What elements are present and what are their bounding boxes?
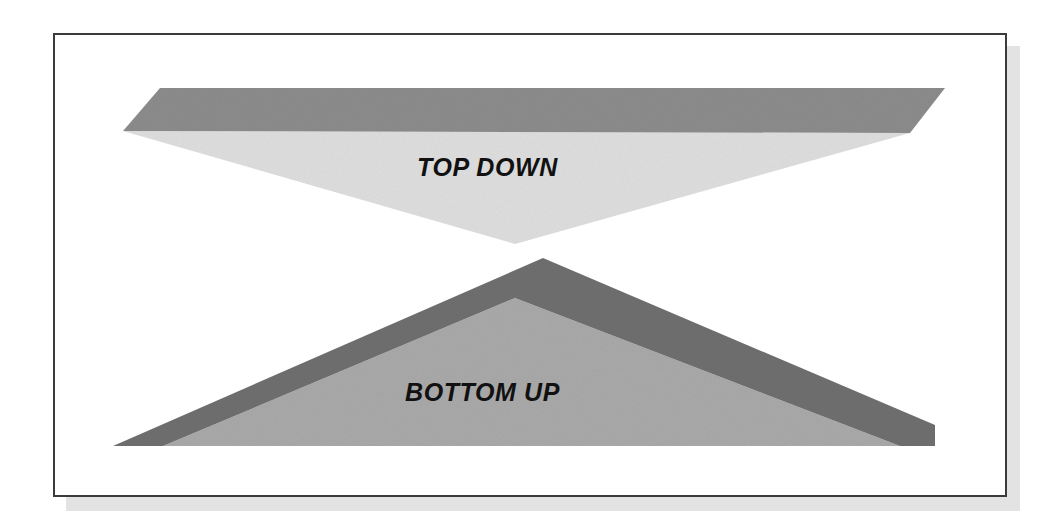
diagram-canvas: TOP DOWN BOTTOM UP	[0, 0, 1062, 530]
top-down-arrow-face	[123, 131, 910, 244]
arrow-illustration	[0, 0, 1062, 530]
bottom-up-arrow-shape	[113, 258, 935, 446]
top-down-arrow-bevel	[123, 88, 945, 133]
top-down-label: TOP DOWN	[417, 153, 558, 182]
bottom-up-label: BOTTOM UP	[405, 378, 560, 407]
